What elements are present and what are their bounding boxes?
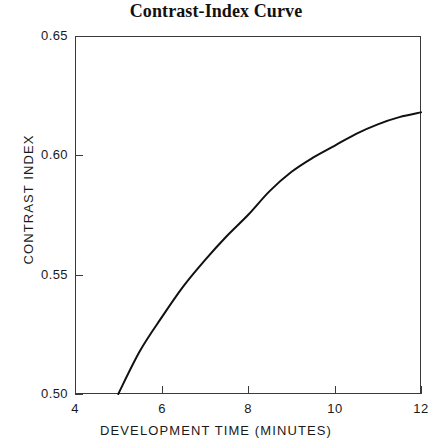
curve-hc110 bbox=[118, 112, 421, 394]
ytick-mark-0.50 bbox=[75, 394, 83, 395]
ytick-mark-0.55 bbox=[75, 275, 83, 276]
xtick-label-8: 8 bbox=[244, 401, 252, 416]
xtick-mark-12 bbox=[421, 386, 422, 394]
xtick-mark-10 bbox=[335, 386, 336, 394]
y-axis-title: CONTRAST INDEX bbox=[21, 120, 36, 280]
xtick-label-6: 6 bbox=[158, 401, 166, 416]
xtick-mark-4 bbox=[75, 386, 76, 394]
xtick-group-6: 6 bbox=[142, 399, 182, 417]
chart-title: Contrast-Index Curve bbox=[0, 1, 432, 22]
contrast-index-chart: Contrast-Index Curve 0.65 0.60 0.55 0.50… bbox=[0, 0, 432, 446]
xtick-group-10: 10 bbox=[315, 399, 355, 417]
x-axis-title: DEVELOPMENT TIME (MINUTES) bbox=[0, 423, 432, 438]
xtick-mark-8 bbox=[248, 386, 249, 394]
xtick-mark-6 bbox=[162, 386, 163, 394]
xtick-label-4: 4 bbox=[71, 401, 79, 416]
xtick-group-8: 8 bbox=[228, 399, 268, 417]
xtick-label-10: 10 bbox=[327, 401, 342, 416]
plot-curve-layer bbox=[75, 36, 421, 394]
ytick-mark-0.65 bbox=[75, 36, 83, 37]
ytick-group-0: 0.65 bbox=[22, 29, 68, 43]
ytick-label-0.65: 0.65 bbox=[24, 29, 68, 42]
ytick-mark-0.60 bbox=[75, 155, 83, 156]
xtick-group-4: 4 bbox=[55, 399, 95, 417]
xtick-group-12: 12 bbox=[401, 399, 432, 417]
xtick-label-12: 12 bbox=[413, 401, 428, 416]
